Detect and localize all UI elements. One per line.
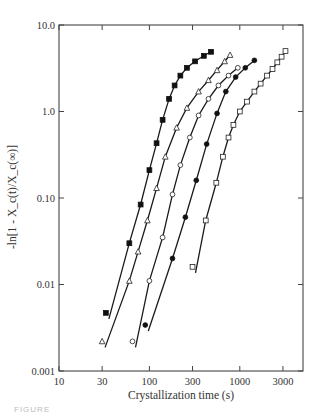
avrami-plot: 1030100300100030000.0010.010.101.010.0 -… <box>0 0 319 419</box>
series-filled-circles <box>143 58 257 331</box>
data-series <box>99 49 288 348</box>
x-tick-label: 300 <box>185 376 201 387</box>
figure-caption: FIGURE <box>14 405 50 414</box>
x-tick-label: 1000 <box>229 376 250 387</box>
y-tick-label: 0.10 <box>37 193 55 204</box>
x-tick-label: 100 <box>142 376 158 387</box>
series-open-triangles <box>99 52 233 347</box>
y-tick-label: 10.0 <box>37 20 55 31</box>
series-filled-squares <box>103 49 213 319</box>
x-tick-label: 30 <box>97 376 108 387</box>
x-axis-title: Crystallization time (s) <box>128 389 234 402</box>
y-tick-label: 0.01 <box>37 279 55 290</box>
x-tick-label: 3000 <box>272 376 293 387</box>
series-open-squares <box>190 49 288 273</box>
y-tick-label: 0.001 <box>31 366 55 377</box>
y-axis-title: -ln[1 - X_c(t)/X_c(∞)] <box>6 145 19 249</box>
axis-ticks: 1030100300100030000.0010.010.101.010.0 <box>31 20 303 388</box>
y-tick-label: 1.0 <box>42 106 55 117</box>
x-tick-label: 10 <box>54 376 65 387</box>
